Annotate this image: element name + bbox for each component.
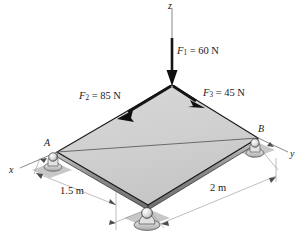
dim1-value: 1.5 bbox=[60, 185, 73, 196]
force-label-f1: F1 = 60 N bbox=[177, 46, 219, 57]
mechanics-figure: z x y A B F1 = 60 N F2 = 85 N F3 = 45 N … bbox=[0, 0, 306, 238]
dimension-label-2m: 2 m bbox=[210, 183, 226, 194]
arrowhead-1p5-right-upper bbox=[109, 199, 116, 205]
f3-equals: = bbox=[213, 87, 224, 98]
f2-equals: = bbox=[89, 90, 100, 101]
arrowhead-2m-right bbox=[269, 177, 276, 183]
dim2-value: 2 bbox=[210, 182, 215, 193]
x-axis-label: x bbox=[9, 165, 13, 175]
z-axis-label: z bbox=[168, 1, 172, 11]
f1-magnitude: 60 bbox=[198, 45, 209, 56]
dimension-label-1p5m: 1.5 m bbox=[60, 186, 84, 197]
dim2-unit: m bbox=[218, 182, 226, 193]
support-front-ball bbox=[142, 208, 153, 219]
f3-unit: N bbox=[237, 87, 245, 98]
force-vector-f1 bbox=[167, 38, 178, 86]
f1-arrowhead bbox=[167, 70, 178, 86]
point-label-a: A bbox=[44, 138, 50, 148]
f1-unit: N bbox=[211, 45, 219, 56]
support-a-ball bbox=[49, 153, 57, 161]
support-b-ball bbox=[251, 139, 259, 147]
f1-equals: = bbox=[187, 45, 198, 56]
arrowhead-1p5-left bbox=[36, 173, 43, 179]
y-axis-label: y bbox=[290, 149, 294, 159]
point-label-b: B bbox=[258, 124, 264, 134]
f2-magnitude: 85 bbox=[100, 90, 111, 101]
arrowhead-1p5-right bbox=[109, 220, 116, 225]
f2-unit: N bbox=[113, 90, 121, 101]
force-label-f3: F3 = 45 N bbox=[203, 88, 245, 99]
dim1-unit: m bbox=[76, 185, 84, 196]
force-label-f2: F2 = 85 N bbox=[79, 91, 121, 102]
figure-canvas bbox=[0, 0, 306, 238]
f3-magnitude: 45 bbox=[224, 87, 235, 98]
